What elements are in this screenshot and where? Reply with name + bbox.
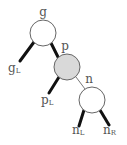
subtree-label-nR: nR bbox=[103, 123, 117, 137]
subtree-label-pL: pL bbox=[41, 93, 54, 107]
node-label-n: n bbox=[85, 72, 93, 86]
node-label-p: p bbox=[61, 39, 69, 53]
edge-p-n bbox=[76, 77, 85, 89]
node-label-g: g bbox=[39, 5, 47, 19]
node-g bbox=[30, 20, 56, 46]
edge-n-nL bbox=[79, 110, 84, 126]
subtree-label-nL: nL bbox=[72, 123, 85, 137]
node-n bbox=[79, 87, 105, 113]
subtree-label-gL: gL bbox=[8, 61, 21, 75]
edge-g-p bbox=[51, 43, 58, 57]
edge-p-pL bbox=[49, 77, 59, 93]
edge-g-gL bbox=[20, 42, 34, 61]
binary-tree-diagram: g p n gL pL nL nR bbox=[0, 0, 127, 145]
node-p bbox=[54, 54, 80, 80]
